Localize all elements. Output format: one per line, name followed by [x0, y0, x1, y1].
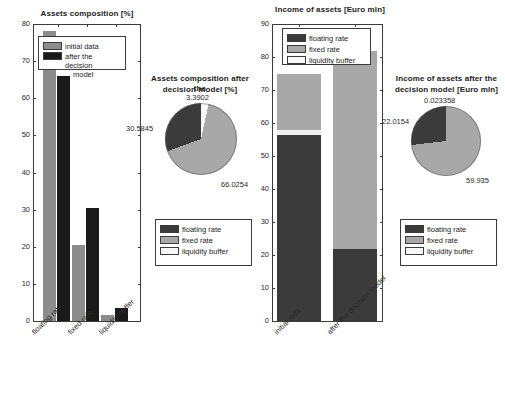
legend-label-initial-data: initial data	[65, 42, 99, 51]
legend-label-liquidity-buffer: liquidity buffer	[309, 56, 355, 65]
assets-bar-tick	[138, 247, 141, 248]
income-pie-title-line2: decision model [Euro mln]	[390, 85, 503, 95]
assets-bar-ytick-80: 80	[9, 20, 30, 28]
income-bar-tick	[380, 255, 383, 256]
income-bar-tick	[272, 189, 275, 190]
legend-swatch-liquidity-buffer	[160, 247, 179, 255]
income-pie-title-line1: Income of assets after the	[390, 74, 503, 84]
income-bar-tick	[380, 57, 383, 58]
legend-swatch-liquidity-buffer	[287, 56, 306, 64]
income-bar-ytick-40: 40	[248, 185, 269, 193]
assets-bar-ytick-10: 10	[9, 280, 30, 288]
assets-bar-legend: initial data after the decision model	[38, 36, 126, 70]
legend-item-after-model: after the decision model	[43, 52, 121, 72]
figure-canvas: Assets composition [%] 80 70 60 50 40 30…	[0, 0, 505, 400]
legend-label-liquidity-buffer: liquidity buffer	[182, 247, 228, 256]
legend-label-after-model: after the decision model	[65, 52, 121, 79]
assets-pie-label-liquidity-buffer: 3.3902	[186, 93, 209, 102]
legend-label-after-model-line2: model	[65, 70, 93, 79]
assets-bar-tick	[116, 24, 117, 27]
income-bar-legend: floating rate fixed rate liquidity buffe…	[282, 28, 371, 65]
legend-label-fixed-rate: fixed rate	[309, 45, 340, 54]
assets-bar-tick	[87, 24, 88, 27]
income-bar-ytick-70: 70	[248, 86, 269, 94]
income-pie-label-fixed-rate: 59.935	[466, 176, 489, 185]
legend-swatch-after-model	[43, 52, 62, 60]
assets-bar-tick	[33, 135, 36, 136]
assets-bar-tick	[138, 61, 141, 62]
assets-bar-ytick-20: 20	[9, 243, 30, 251]
legend-item-floating-rate: floating rate	[160, 224, 247, 234]
assets-bar-floating-after	[57, 76, 70, 321]
legend-item-floating-rate: floating rate	[287, 33, 366, 43]
assets-bar-tick	[33, 61, 36, 62]
assets-pie-legend: floating rate fixed rate liquidity buffe…	[155, 219, 252, 266]
income-bar-tick	[272, 90, 275, 91]
legend-swatch-initial-data	[43, 42, 62, 50]
assets-bar-ytick-60: 60	[9, 94, 30, 102]
income-bar-title: Income of assets [Euro mln]	[255, 5, 405, 15]
income-bar-after-fixed	[333, 51, 377, 249]
assets-pie-label-floating-rate: 30.5845	[126, 124, 153, 133]
assets-bar-ytick-30: 30	[9, 206, 30, 214]
income-pie-label-floating-rate: 22.0154	[382, 117, 409, 126]
assets-pie	[165, 103, 237, 175]
income-bar-tick	[272, 156, 275, 157]
legend-item-fixed-rate: fixed rate	[287, 44, 366, 54]
assets-bar-tick	[33, 247, 36, 248]
assets-bar-tick	[138, 284, 141, 285]
legend-item-floating-rate: floating rate	[405, 224, 492, 234]
legend-label-floating-rate: floating rate	[182, 225, 221, 234]
legend-label-floating-rate: floating rate	[427, 225, 466, 234]
income-bar-tick	[272, 288, 275, 289]
assets-bar-ytick-40: 40	[9, 169, 30, 177]
assets-bar-tick	[33, 98, 36, 99]
legend-swatch-floating-rate	[160, 225, 179, 233]
income-bar-tick	[272, 222, 275, 223]
income-bar-tick	[380, 288, 383, 289]
assets-bar-tick	[33, 173, 36, 174]
legend-label-fixed-rate: fixed rate	[427, 236, 458, 245]
legend-item-liquidity-buffer: liquidity buffer	[160, 246, 247, 256]
income-bar-tick	[272, 24, 275, 25]
assets-pie-label-fixed-rate: 66.0254	[221, 180, 248, 189]
income-bar-ytick-90: 90	[248, 20, 269, 28]
income-bar-initial-floating	[277, 135, 321, 322]
assets-bar-tick	[138, 98, 141, 99]
assets-bar-ytick-0: 0	[9, 317, 30, 325]
legend-swatch-fixed-rate	[287, 45, 306, 53]
assets-bar-tick	[33, 210, 36, 211]
assets-bar-tick	[33, 284, 36, 285]
legend-item-initial-data: initial data	[43, 41, 121, 51]
legend-label-fixed-rate: fixed rate	[182, 236, 213, 245]
legend-item-fixed-rate: fixed rate	[405, 235, 492, 245]
assets-bar-ytick-50: 50	[9, 131, 30, 139]
income-bar-initial-fixed	[277, 74, 321, 135]
income-pie	[411, 106, 481, 176]
income-bar-ytick-80: 80	[248, 53, 269, 61]
assets-bar-fixed-initial	[72, 245, 85, 321]
income-bar-tick	[272, 321, 275, 322]
income-bar-tick	[380, 156, 383, 157]
legend-swatch-fixed-rate	[160, 236, 179, 244]
income-bar-tick	[380, 189, 383, 190]
legend-swatch-fixed-rate	[405, 236, 424, 244]
legend-swatch-liquidity-buffer	[405, 247, 424, 255]
assets-bar-ytick-70: 70	[9, 57, 30, 65]
income-pie-legend: floating rate fixed rate liquidity buffe…	[400, 219, 497, 266]
legend-item-liquidity-buffer: liquidity buffer	[405, 246, 492, 256]
income-bar-tick	[272, 123, 275, 124]
legend-item-liquidity-buffer: liquidity buffer	[287, 55, 366, 65]
legend-label-after-model-line1: after the decision	[65, 52, 93, 70]
assets-bar-floating-initial	[43, 31, 56, 321]
assets-bar-tick	[138, 173, 141, 174]
income-bar-tick	[272, 255, 275, 256]
income-bar-ytick-0: 0	[248, 317, 269, 325]
assets-bar-title: Assets composition [%]	[22, 9, 152, 19]
income-bar-tick	[299, 24, 300, 27]
assets-bar-tick	[58, 24, 59, 27]
legend-swatch-floating-rate	[287, 34, 306, 42]
income-bar-ytick-50: 50	[248, 152, 269, 160]
legend-item-fixed-rate: fixed rate	[160, 235, 247, 245]
assets-bar-tick	[33, 321, 36, 322]
